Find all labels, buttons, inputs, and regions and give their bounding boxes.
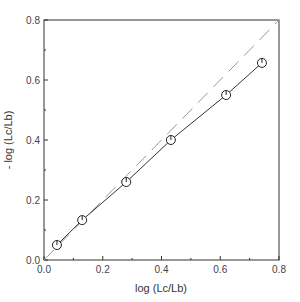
y-tick-label: 0.6 [26,75,40,86]
chart: 0.00.20.40.60.8 0.00.20.40.60.8 log (Lc/… [0,0,300,302]
y-tick-label: 0.2 [26,195,40,206]
y-axis-label: - log (Lc/Lb) [2,111,14,170]
data-polyline [57,63,262,245]
y-tick-label: 0.8 [26,15,40,26]
x-tick-label: 0.8 [272,264,286,275]
x-axis-label: log (Lc/Lb) [135,282,187,294]
y-tick-label: 0.0 [26,255,40,266]
y-tick-label: 0.4 [26,135,40,146]
x-tick-labels: 0.00.20.40.60.8 [37,264,286,275]
x-tick-label: 0.6 [213,264,227,275]
x-tick-label: 0.4 [155,264,169,275]
x-tick-label: 0.0 [37,264,51,275]
data-series-line [57,63,262,245]
x-tick-label: 0.2 [96,264,110,275]
y-tick-labels: 0.00.20.40.60.8 [26,15,40,266]
